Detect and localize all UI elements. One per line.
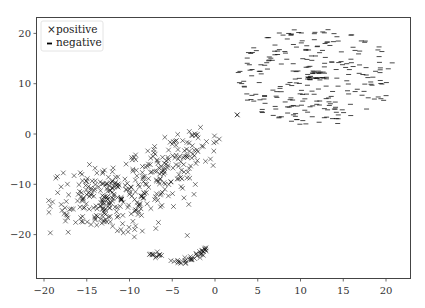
positive-point <box>129 185 134 190</box>
positive-point <box>186 202 191 207</box>
positive-point <box>204 139 209 144</box>
y-tick-label: 20 <box>18 28 31 39</box>
positive-point <box>65 182 70 187</box>
positive-point <box>195 148 200 153</box>
y-tick-label: −20 <box>10 229 31 240</box>
positive-point <box>211 163 216 168</box>
positive-point <box>55 190 60 195</box>
positive-point <box>140 229 145 234</box>
positive-point <box>59 185 64 190</box>
positive-point <box>193 182 198 187</box>
positive-point <box>63 219 68 224</box>
positive-point <box>93 166 98 171</box>
positive-point <box>78 215 83 220</box>
positive-point <box>133 224 138 229</box>
positive-point <box>169 180 174 185</box>
positive-point <box>180 186 185 191</box>
positive-point <box>212 149 217 154</box>
positive-point <box>160 155 165 160</box>
positive-point <box>110 224 115 229</box>
positive-point <box>171 166 176 171</box>
positive-point <box>160 169 165 174</box>
positive-point <box>64 199 69 204</box>
x-tick-label: 0 <box>212 285 218 296</box>
positive-point <box>115 215 120 220</box>
positive-point <box>163 182 168 187</box>
positive-point <box>217 137 222 142</box>
positive-point <box>170 191 175 196</box>
legend: × positive negative <box>41 21 103 51</box>
positive-point <box>55 174 60 179</box>
positive-point <box>171 204 176 209</box>
positive-point <box>140 170 145 175</box>
positive-point <box>182 196 187 201</box>
positive-point <box>175 132 180 137</box>
positive-point <box>84 192 89 197</box>
positive-point <box>46 198 51 203</box>
positive-point <box>161 172 166 177</box>
positive-point <box>66 230 71 235</box>
positive-point <box>73 220 78 225</box>
scatter-chart: −20−15−10−505101520 20100−10−20 × positi… <box>0 0 425 308</box>
positive-point <box>87 162 92 167</box>
positive-point <box>123 177 128 182</box>
positive-point <box>108 220 113 225</box>
positive-point <box>145 149 150 154</box>
positive-point <box>179 168 184 173</box>
x-axis-ticks: −20−15−10−505101520 <box>33 279 392 297</box>
positive-point <box>124 162 129 167</box>
positive-point <box>78 205 83 210</box>
plot-frame <box>37 18 411 279</box>
positive-point <box>127 225 132 230</box>
positive-point <box>126 229 131 234</box>
positive-point <box>121 200 126 205</box>
positive-point <box>135 174 140 179</box>
positive-point <box>130 194 135 199</box>
positive-point <box>94 223 99 228</box>
positive-point <box>121 213 126 218</box>
positive-point <box>148 156 153 161</box>
positive-point <box>78 170 83 175</box>
positive-point <box>182 148 187 153</box>
x-tick-label: 5 <box>255 285 261 296</box>
positive-point <box>174 143 179 148</box>
positive-point <box>47 210 52 215</box>
positive-point <box>133 153 138 158</box>
positive-point <box>169 258 174 263</box>
y-tick-label: −10 <box>10 179 31 190</box>
positive-point <box>149 206 154 211</box>
positive-point <box>132 227 137 232</box>
positive-point <box>154 226 159 231</box>
legend-label-negative: negative <box>56 36 102 48</box>
positive-point <box>107 206 112 211</box>
legend-item-positive: × positive <box>47 23 98 35</box>
positive-point <box>91 206 96 211</box>
positive-point <box>75 199 80 204</box>
positive-point <box>133 178 138 183</box>
positive-point <box>166 194 171 199</box>
x-tick-label: −20 <box>33 285 54 296</box>
positive-point <box>80 179 85 184</box>
positive-point <box>61 171 66 176</box>
y-axis-ticks: 20100−10−20 <box>10 28 37 240</box>
legend-label-positive: positive <box>56 23 98 35</box>
positive-point <box>66 193 71 198</box>
positive-point <box>176 147 181 152</box>
positive-point <box>179 159 184 164</box>
positive-point <box>136 212 141 217</box>
positive-point <box>132 197 137 202</box>
points-layer <box>46 30 394 266</box>
positive-point <box>198 125 203 130</box>
positive-point <box>87 194 92 199</box>
y-tick-label: 10 <box>18 78 31 89</box>
x-tick-label: −15 <box>76 285 97 296</box>
positive-point <box>208 157 213 162</box>
positive-point <box>131 219 136 224</box>
positive-point <box>212 134 217 139</box>
positive-point <box>134 168 139 173</box>
y-tick-label: 0 <box>25 129 31 140</box>
positive-point <box>87 207 92 212</box>
positive-point <box>152 144 157 149</box>
positive-point <box>106 175 111 180</box>
x-tick-label: 20 <box>380 285 393 296</box>
